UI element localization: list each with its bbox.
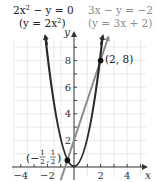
parabola-left-arrow bbox=[45, 37, 47, 45]
point-label-2-8: (2, 8) bbox=[105, 53, 133, 65]
svg-text:,: , bbox=[47, 154, 50, 164]
axis-ticks bbox=[21, 47, 141, 167]
x-axis-label: x bbox=[145, 169, 151, 181]
svg-text:2: 2 bbox=[51, 158, 55, 166]
svg-text:): ) bbox=[57, 152, 61, 165]
svg-text:(y = 3x + 2): (y = 3x + 2) bbox=[88, 17, 152, 29]
parabola-right-arrow bbox=[101, 37, 103, 45]
svg-text:2: 2 bbox=[40, 158, 44, 166]
point-label-neg-half-half: (− 1 2 , 1 2 ) bbox=[26, 149, 61, 166]
legend-parabola: 2x2 − y = 0 (y = 2x2) bbox=[13, 4, 74, 29]
svg-text:3x − y = −2: 3x − y = −2 bbox=[88, 4, 153, 16]
svg-text:1: 1 bbox=[51, 149, 55, 157]
svg-text:2x2 − y = 0: 2x2 − y = 0 bbox=[13, 4, 74, 16]
y-tick-label: 2 bbox=[65, 135, 71, 146]
x-tick-label: 4 bbox=[124, 170, 130, 181]
svg-text:(−: (− bbox=[26, 152, 40, 165]
y-tick-label: 8 bbox=[65, 55, 71, 66]
y-tick-label: 4 bbox=[65, 108, 71, 119]
x-tick-label: −2 bbox=[40, 170, 55, 181]
intersection-point-neg-half-half bbox=[65, 158, 71, 164]
legend-line: 3x − y = −2 (y = 3x + 2) bbox=[88, 4, 153, 29]
chart: −4 −2 2 4 x 2 4 6 8 y (2, 8) (− 1 2 , 1 … bbox=[0, 0, 156, 182]
svg-text:(y = 2x2): (y = 2x2) bbox=[19, 17, 66, 29]
intersection-point-2-8 bbox=[98, 58, 104, 64]
svg-text:1: 1 bbox=[40, 149, 44, 157]
x-tick-label: −4 bbox=[13, 170, 28, 181]
x-tick-label: 2 bbox=[97, 170, 103, 181]
y-tick-label: 6 bbox=[65, 82, 71, 93]
